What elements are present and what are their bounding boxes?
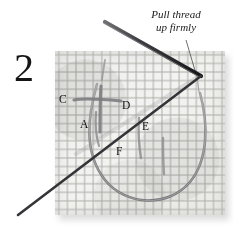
stitch-tail-top [102, 60, 105, 80]
needle-eye-end [105, 22, 201, 76]
point-label-e: E [142, 121, 149, 133]
thread-loop [89, 84, 205, 201]
stitch-diagram-figure: 2 Pull thread up firmly [0, 0, 234, 234]
stitch-arm-vertical [100, 86, 101, 132]
stitch-tail-right [163, 138, 164, 174]
stitch-arm-horizontal [74, 99, 121, 101]
illustration-overlay [0, 0, 234, 234]
needle-shadow [76, 78, 196, 154]
point-label-a: A [80, 119, 88, 131]
point-label-d: D [122, 100, 130, 112]
needle-highlight [104, 23, 198, 76]
point-label-f: F [116, 146, 122, 158]
point-label-c: C [59, 94, 67, 106]
